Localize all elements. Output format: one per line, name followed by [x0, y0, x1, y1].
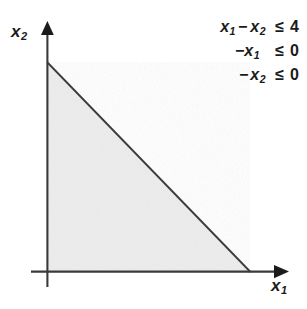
constraint-term-2-subscript: 2	[260, 73, 266, 85]
constraint-term-1: x	[220, 18, 229, 35]
constraint-term-2-subscript: 2	[260, 25, 266, 37]
constraint-row: x1−x2 ≤ 4	[199, 18, 299, 41]
y-axis-label: x2	[11, 22, 27, 42]
constraint-row: −x2 ≤ 0	[199, 66, 299, 89]
constraint-term-1: −	[239, 66, 248, 83]
constraint-term-1: −x	[235, 42, 253, 59]
constraint-relation: ≤	[271, 18, 284, 36]
constraint-rhs: 4	[288, 18, 299, 36]
constraint-term-1-subscript: 1	[254, 49, 260, 61]
constraint-rhs: 0	[288, 66, 299, 84]
constraint-rhs: 0	[288, 42, 299, 60]
constraint-term-1-subscript: 1	[230, 25, 236, 37]
constraint-expression: −x1	[199, 42, 265, 60]
constraint-relation: ≤	[271, 42, 284, 60]
x-axis-label-variable: x	[271, 276, 280, 295]
constraint-operator: −	[238, 18, 247, 35]
constraint-expression: −x2	[199, 66, 265, 84]
y-axis-label-variable: x	[11, 22, 20, 41]
y-axis-arrowhead-icon	[41, 21, 54, 35]
constraint-term-2: x	[250, 66, 259, 83]
x-axis-label: x1	[271, 276, 287, 296]
y-axis-label-subscript: 2	[21, 30, 27, 42]
constraint-relation: ≤	[271, 66, 284, 84]
x-axis-label-subscript: 1	[281, 284, 287, 296]
constraint-list: x1−x2 ≤ 4 −x1 ≤ 0 −x2 ≤ 0	[199, 18, 299, 89]
constraint-row: −x1 ≤ 0	[199, 42, 299, 65]
constraint-term-2: x	[250, 18, 259, 35]
constraint-expression: x1−x2	[199, 18, 265, 36]
linear-program-feasible-region-figure: x2 x1 x1−x2 ≤ 4 −x1 ≤ 0 −x2 ≤ 0	[0, 0, 307, 309]
